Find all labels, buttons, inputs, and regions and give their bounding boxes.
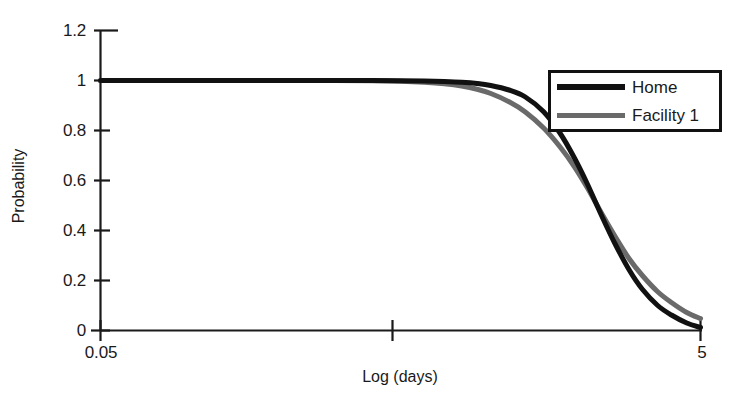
x-axis-title: Log (days) (362, 368, 438, 386)
legend: Home Facility 1 (548, 70, 722, 132)
y-tick-label-0.4: 0.4 (38, 222, 86, 239)
y-tick-label-0.8: 0.8 (38, 122, 86, 139)
x-tick-label-max: 5 (697, 344, 706, 361)
chart-figure: 1.2 1 0.8 0.6 0.4 0.2 0 0.05 5 Probabili… (0, 0, 733, 417)
legend-swatch-home-icon (557, 84, 625, 90)
legend-swatch-facility-1-icon (557, 113, 625, 118)
y-tick-label-1.2: 1.2 (38, 22, 86, 39)
y-axis-title: Probability (10, 149, 28, 224)
y-tick-label-0.6: 0.6 (38, 172, 86, 189)
y-tick-label-0.2: 0.2 (38, 272, 86, 289)
legend-item-home: Home (551, 73, 719, 101)
y-axis-ticks (91, 31, 118, 331)
legend-label-facility-1: Facility 1 (632, 107, 699, 124)
legend-item-facility-1: Facility 1 (551, 101, 719, 129)
y-tick-label-0: 0 (38, 322, 86, 339)
legend-label-home: Home (632, 79, 677, 96)
y-tick-label-1: 1 (38, 72, 86, 89)
x-tick-label-min: 0.05 (85, 344, 117, 361)
